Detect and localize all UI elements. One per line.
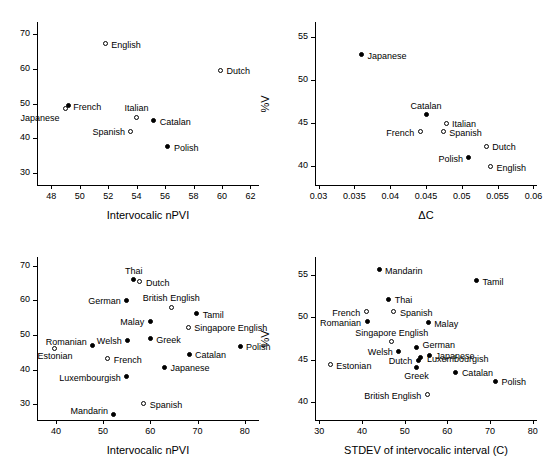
data-point-marker bbox=[364, 309, 369, 314]
data-point-marker bbox=[414, 365, 419, 370]
panel-bottom-right: 30405060708040455055STDEV of intervocali… bbox=[0, 0, 555, 470]
data-point-label: Estonian bbox=[336, 361, 371, 371]
y-axis-tick-label: 55 bbox=[275, 269, 308, 279]
data-point-label: Polish bbox=[502, 377, 527, 387]
data-point-marker bbox=[396, 349, 401, 354]
data-point-marker bbox=[493, 379, 498, 384]
y-axis-title: %V bbox=[259, 330, 271, 347]
data-point-marker bbox=[474, 278, 479, 283]
data-point-label: French bbox=[0, 308, 360, 318]
data-point-label: Thai bbox=[395, 295, 413, 305]
data-point-label: Romanian bbox=[0, 318, 361, 328]
data-point-label: Catalan bbox=[462, 368, 493, 378]
x-axis-tick bbox=[319, 420, 320, 424]
data-point-marker bbox=[426, 320, 431, 325]
data-point-label: Mandarin bbox=[385, 266, 423, 276]
data-point-marker bbox=[386, 297, 391, 302]
data-point-label: Greek bbox=[357, 371, 477, 381]
data-point-label: Tamil bbox=[482, 277, 503, 287]
data-point-marker bbox=[389, 339, 394, 344]
y-axis-tick bbox=[311, 402, 315, 403]
data-point-label: Singapore English bbox=[332, 328, 452, 338]
data-point-marker bbox=[328, 362, 333, 367]
x-axis-tick bbox=[405, 420, 406, 424]
scatter-plot-figure: 48505254565860623040506070Intervocalic n… bbox=[0, 0, 555, 470]
data-point-marker bbox=[416, 358, 421, 363]
x-axis-title: STDEV of intervocalic interval (C) bbox=[315, 444, 537, 456]
data-point-marker bbox=[365, 319, 370, 324]
x-axis-tick bbox=[533, 420, 534, 424]
data-point-marker bbox=[391, 309, 396, 314]
data-point-marker bbox=[425, 392, 430, 397]
x-axis-tick-label: 80 bbox=[508, 426, 555, 436]
x-axis-line bbox=[315, 420, 537, 421]
y-axis-tick bbox=[311, 275, 315, 276]
data-point-label: British English bbox=[0, 391, 421, 401]
x-axis-tick bbox=[362, 420, 363, 424]
x-axis-tick bbox=[447, 420, 448, 424]
data-point-label: Luxembourgish bbox=[427, 354, 489, 364]
data-point-marker bbox=[414, 345, 419, 350]
data-point-marker bbox=[377, 267, 382, 272]
data-point-label: Spanish bbox=[400, 308, 433, 318]
data-point-label: German bbox=[423, 340, 456, 350]
x-axis-tick bbox=[490, 420, 491, 424]
